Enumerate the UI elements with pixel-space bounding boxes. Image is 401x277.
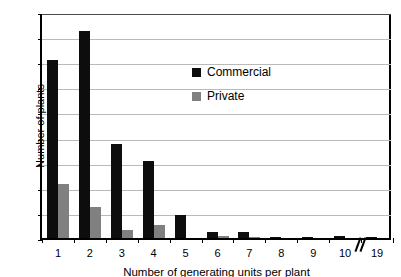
x-tick-label: 10 xyxy=(339,247,351,259)
bar-commercial-4 xyxy=(143,161,154,238)
x-tick-mark xyxy=(138,238,139,243)
right-axis-spine xyxy=(389,14,391,238)
x-tick-mark xyxy=(329,238,330,243)
gridline xyxy=(42,165,391,166)
legend-item-private: Private xyxy=(192,84,271,108)
gridline xyxy=(42,190,391,191)
x-tick-label: 9 xyxy=(310,247,316,259)
gridline xyxy=(42,14,391,15)
y-tick-mark xyxy=(38,39,42,40)
legend-item-commercial: Commercial xyxy=(192,60,271,84)
y-tick-mark xyxy=(38,190,42,191)
x-tick-label: 2 xyxy=(87,247,93,259)
x-tick-label: 7 xyxy=(246,247,252,259)
bar-private-2 xyxy=(90,207,101,238)
x-tick-mark xyxy=(361,238,362,243)
bar-private-7 xyxy=(249,237,260,238)
x-tick-label: 4 xyxy=(151,247,157,259)
gray-square-swatch-icon xyxy=(192,92,201,101)
bar-commercial-10 xyxy=(334,236,345,239)
legend: Commercial Private xyxy=(192,60,271,108)
bar-commercial-1 xyxy=(47,60,58,238)
bar-private-3 xyxy=(122,230,133,238)
x-tick-mark xyxy=(233,238,234,243)
plot-area: 020406080100120140160180 1234567891019 N… xyxy=(40,14,391,240)
gridline xyxy=(42,140,391,141)
bar-commercial-5 xyxy=(175,215,186,238)
gridline xyxy=(42,39,391,40)
bar-private-4 xyxy=(154,225,165,238)
black-square-swatch-icon xyxy=(192,68,201,77)
bar-commercial-6 xyxy=(207,232,218,238)
x-tick-label: 3 xyxy=(119,247,125,259)
x-tick-mark xyxy=(393,238,394,243)
x-tick-mark xyxy=(74,238,75,243)
y-tick-mark xyxy=(38,215,42,216)
x-tick-mark xyxy=(106,238,107,243)
bar-commercial-2 xyxy=(79,31,90,238)
bar-commercial-9 xyxy=(302,237,313,238)
bar-private-6 xyxy=(218,236,229,239)
x-tick-label: 19 xyxy=(371,247,383,259)
x-tick-mark xyxy=(170,238,171,243)
y-tick-mark xyxy=(38,64,42,65)
x-tick-mark xyxy=(202,238,203,243)
bar-chart-figure: 020406080100120140160180 1234567891019 N… xyxy=(0,0,401,277)
x-tick-label: 8 xyxy=(278,247,284,259)
y-axis-title: Number of plants xyxy=(34,84,46,168)
y-tick-mark xyxy=(38,14,42,15)
x-tick-label: 1 xyxy=(55,247,61,259)
x-tick-label: 5 xyxy=(183,247,189,259)
x-tick-mark xyxy=(265,238,266,243)
x-axis-title: Number of generating units per plant xyxy=(42,266,391,277)
x-tick-mark xyxy=(297,238,298,243)
bar-commercial-7 xyxy=(238,232,249,238)
gridline xyxy=(42,114,391,115)
legend-label-private: Private xyxy=(207,89,244,103)
bar-commercial-3 xyxy=(111,144,122,238)
bar-commercial-8 xyxy=(270,237,281,238)
x-tick-label: 6 xyxy=(214,247,220,259)
x-tick-mark xyxy=(42,238,43,243)
bar-private-1 xyxy=(58,184,69,238)
legend-label-commercial: Commercial xyxy=(207,65,271,79)
bar-commercial-19 xyxy=(366,237,377,238)
